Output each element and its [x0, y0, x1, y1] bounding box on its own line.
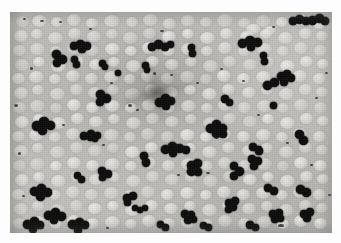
- film-grain-overlay: [10, 12, 332, 233]
- micrograph-plate: [10, 12, 332, 233]
- micrograph-figure: [0, 0, 341, 243]
